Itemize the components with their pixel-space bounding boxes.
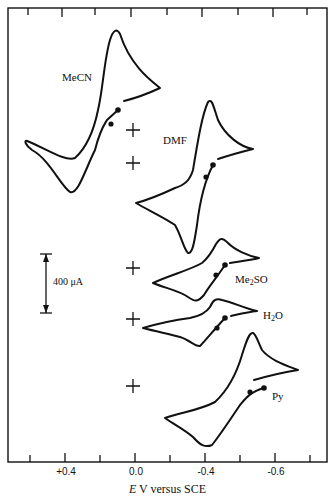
x-tick-label: 0.0 — [129, 466, 143, 477]
scale-bar-label: 400 μA — [53, 276, 83, 287]
curve-dmf — [136, 101, 253, 253]
bottom-ticks — [30, 453, 310, 462]
curve-me2so — [153, 239, 259, 301]
curve-h2o — [143, 299, 257, 346]
x-tick-label: -0.6 — [267, 466, 284, 477]
current-scale-bar — [40, 254, 52, 313]
curve-mecn — [25, 31, 160, 193]
x-tick-label: -0.4 — [197, 466, 214, 477]
label-dmf: DMF — [163, 134, 187, 146]
x-axis-label: E V versus SCE — [0, 482, 335, 497]
top-ticks — [28, 8, 307, 17]
chart-canvas — [0, 0, 335, 501]
label-mecn: MeCN — [62, 71, 92, 83]
x-tick-label: +0.4 — [56, 466, 76, 477]
cyclic-voltammogram-chart: MeCN DMF Me2SO H2O Py 400 μA +0.4 0.0 -0… — [0, 0, 335, 501]
label-me2so: Me2SO — [235, 273, 268, 287]
label-h2o: H2O — [263, 309, 283, 323]
zero-current-markers — [126, 123, 140, 393]
label-py: Py — [272, 390, 284, 402]
